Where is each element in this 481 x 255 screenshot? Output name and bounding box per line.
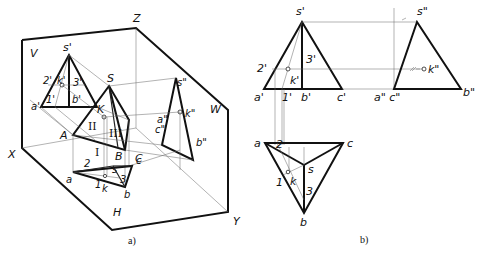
region-1-label: I [95,146,99,159]
front-1-label: 1' [282,91,292,104]
w-c-label: c" [155,124,165,135]
side-b-label: b" [463,86,475,99]
front-k-label: k' [290,74,299,87]
h-k-label: k [102,183,109,194]
region-2-label: II [88,120,97,133]
drawing-canvas: Z X Y V W H s' 2' k' 3' a' 1' b' S K A B… [0,0,481,255]
w-b-label: b" [196,137,207,148]
projector-s-w [109,78,176,86]
v-2-label: 2' [43,75,52,86]
region-3-label: III [109,127,122,140]
h-c-label: c [136,155,142,166]
axis-y-label: Y [233,215,241,228]
tick-mark-top [402,18,406,20]
space-s-label: S [107,72,114,85]
side-view-k-point [422,67,426,71]
figure-a-pictorial: Z X Y V W H s' 2' k' 3' a' 1' b' S K A B… [7,12,241,247]
top-1-label: 1 [276,176,283,189]
front-2-label: 2' [257,62,267,75]
v-k-label: k' [57,75,66,86]
side-s-label: s" [417,5,428,18]
w-k-label: k" [185,108,195,119]
side-view-triangle [394,22,461,89]
top-view-k-s-line [283,165,304,175]
top-3-label: 3 [306,185,313,198]
h-2-label: 2 [84,158,90,169]
top-b-label: b [300,216,307,229]
h-1-label: 1 [95,179,101,190]
top-c-label: c [347,137,353,150]
front-b-label: b' [301,91,311,104]
h-3-label: 3 [120,174,126,185]
figure-a-caption: a) [128,235,136,247]
space-a-label: A [59,129,68,142]
top-2-label: 2 [276,138,283,151]
space-b-label: B [115,150,123,163]
v-3-label: 3' [73,77,82,88]
w-s-label: s" [177,77,187,88]
axis-x-label: X [7,148,16,161]
plane-h-label: H [113,206,121,219]
side-k-label: k" [428,63,439,76]
v-1-label: 1' [46,94,55,105]
h-a-label: a [66,174,72,185]
side-ac-label: a" c" [374,91,400,104]
h-projection-k-point [103,174,106,177]
space-k-label: K [97,103,105,116]
plane-v-label: V [30,47,39,60]
figure-b-orthographic: s' 2' 3' k' a' 1' b' c' s" k" a" c" b" a… [254,5,475,246]
top-a-label: a [254,137,261,150]
top-k-label: k [290,175,297,188]
top-view-k-point [286,170,290,174]
y-axis-line [136,128,228,212]
h-b-label: b [124,189,130,200]
plane-w-label: W [210,103,222,116]
v-s-label: s' [63,41,72,54]
h-s-label: s [112,164,117,175]
v-a-label: a' [31,101,40,112]
front-a-label: a' [254,91,264,104]
figure-b-caption: b) [360,234,368,246]
front-3-label: 3' [306,53,316,66]
axis-z-label: Z [132,12,141,25]
top-s-label: s [308,163,314,176]
front-view-k-point [286,67,290,71]
v-b-label: b' [72,94,81,105]
front-c-label: c' [337,91,346,104]
front-s-label: s' [296,5,305,18]
